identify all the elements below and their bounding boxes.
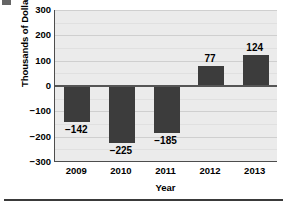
- bottom-divider-rule: [4, 199, 283, 201]
- y-tick-label-−100: −100: [17, 106, 51, 116]
- data-label-2011: −185: [144, 135, 188, 146]
- gridline-250: [55, 23, 277, 24]
- crop-artifact-mark: [2, 0, 11, 5]
- bar-2010: [109, 86, 135, 143]
- x-axis-title: Year: [54, 182, 277, 193]
- x-axis-line: [54, 161, 277, 162]
- y-tick-label-−200: −200: [17, 132, 51, 142]
- y-tick-label-0: 0: [17, 81, 51, 91]
- x-axis-tick-labels: 20092010201120122013: [54, 165, 277, 179]
- gridline--250: [55, 149, 277, 150]
- y-tick-label-200: 200: [17, 30, 51, 40]
- bar-2009: [64, 86, 90, 122]
- y-tick-label-−300: −300: [17, 157, 51, 167]
- bar-2013: [243, 55, 269, 86]
- bar-chart-figure: Thousands of Dollars 3002001000−100−200−…: [0, 0, 287, 208]
- data-label-2009: −142: [54, 124, 98, 135]
- x-tick-label-2013: 2013: [233, 165, 277, 177]
- y-axis-tick-labels: 3002001000−100−200−300: [17, 8, 51, 163]
- bar-2012: [198, 66, 224, 86]
- x-tick-label-2009: 2009: [54, 165, 98, 177]
- data-label-2013: 124: [233, 42, 277, 53]
- x-tick-label-2010: 2010: [99, 165, 143, 177]
- gridline-200: [55, 35, 277, 36]
- y-tick-label-100: 100: [17, 56, 51, 66]
- data-label-2012: 77: [188, 53, 232, 64]
- y-tick-label-300: 300: [17, 5, 51, 15]
- x-tick-label-2012: 2012: [188, 165, 232, 177]
- gridline-300: [55, 10, 277, 11]
- bar-2011: [154, 86, 180, 133]
- x-tick-label-2011: 2011: [144, 165, 188, 177]
- data-label-2010: −225: [99, 145, 143, 156]
- zero-baseline: [55, 85, 277, 87]
